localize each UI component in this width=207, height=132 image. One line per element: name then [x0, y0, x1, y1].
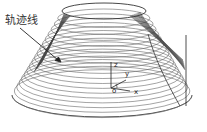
origin-label: o — [112, 88, 116, 95]
y-axis-label: y — [125, 71, 129, 78]
x-axis-label: x — [134, 89, 138, 96]
trajectory-line-label: 轨迹线 — [5, 11, 38, 27]
z-axis-label: z — [114, 62, 118, 69]
diagram-canvas: 轨迹线 z y o x — [0, 0, 207, 132]
